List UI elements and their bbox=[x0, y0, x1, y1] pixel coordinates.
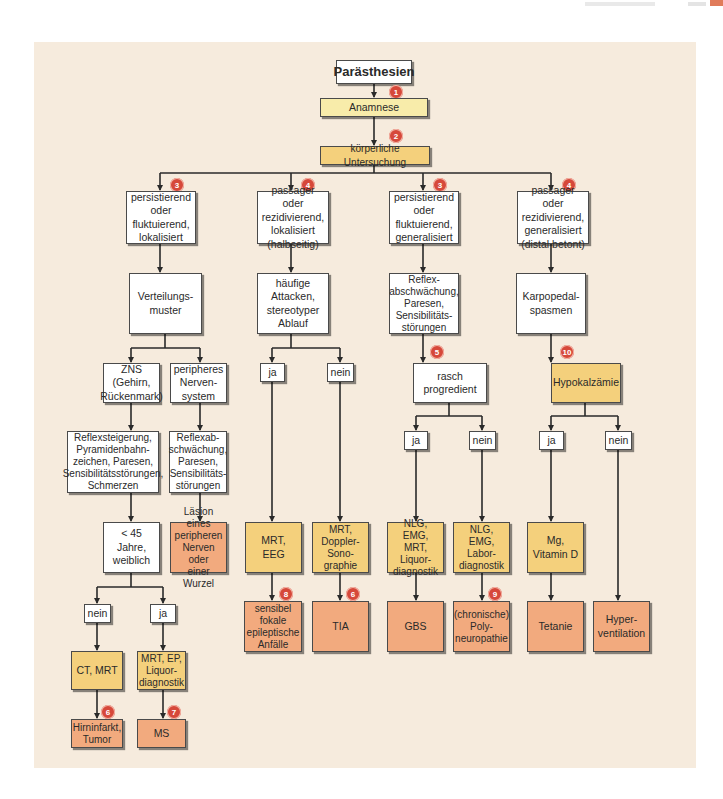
peripher-symptome-box: Reflexab- schwächung, Paresen, Sensibili… bbox=[169, 431, 227, 493]
karpopedalspasmen-box: Karpopedal- spasmen bbox=[516, 273, 586, 334]
mrt-ep-liquor-box: MRT, EP, Liquor- diagnostik bbox=[137, 651, 186, 690]
ms-box: MS bbox=[137, 719, 186, 748]
attacken-box: häufige Attacken, stereotyper Ablauf bbox=[257, 273, 329, 334]
mrt-eeg-box: MRT, EEG bbox=[245, 522, 302, 573]
mg-vitamin-d-box: Mg, Vitamin D bbox=[527, 522, 584, 573]
step-badge-9: 9 bbox=[488, 587, 502, 601]
untersuchung-box: körperliche Untersuchung bbox=[320, 146, 430, 165]
answer-ja-alter: ja bbox=[150, 604, 176, 623]
zns-box: ZNS (Gehirn, Rückenmark) bbox=[103, 363, 160, 403]
answer-nein-alter: nein bbox=[84, 604, 111, 623]
rasch-progredient-box: rasch progredient bbox=[413, 363, 487, 403]
step-badge-8: 8 bbox=[279, 587, 293, 601]
step-badge-2: 2 bbox=[389, 129, 403, 143]
polyneuropathie-box: (chronische) Poly- neuropathie bbox=[453, 601, 510, 652]
tetanie-box: Tetanie bbox=[527, 601, 584, 652]
step-badge-5: 5 bbox=[430, 345, 444, 359]
branch-persistierend-generalisiert: persistierend oder fluktuierend, general… bbox=[389, 191, 459, 244]
ct-mrt-box: CT, MRT bbox=[71, 651, 123, 690]
gbs-box: GBS bbox=[387, 601, 444, 652]
step-badge-10: 10 bbox=[560, 345, 574, 359]
hypokalzaemie-box: Hypokalzämie bbox=[551, 363, 621, 403]
alter-box: < 45 Jahre, weiblich bbox=[103, 522, 160, 573]
title-parasthesien: Parästhesien bbox=[336, 60, 412, 84]
answer-nein-hypo: nein bbox=[605, 431, 632, 450]
answer-nein-rasch: nein bbox=[469, 431, 496, 450]
branch-passager-generalisiert: passager oder rezidivierend, generalisie… bbox=[517, 191, 589, 244]
answer-ja-attacken: ja bbox=[260, 363, 285, 382]
answer-ja-rasch: ja bbox=[404, 431, 428, 450]
answer-nein-attacken: nein bbox=[327, 363, 354, 382]
laesion-box: Läsion eines peripheren Nerven oder eine… bbox=[170, 522, 227, 573]
mrt-doppler-box: MRT, Doppler- Sono- graphie bbox=[312, 522, 369, 573]
step-badge-7: 7 bbox=[167, 705, 181, 719]
nlg-emg-labor-box: NLG, EMG, Labor- diagnostik bbox=[453, 522, 510, 573]
nlg-emg-mrt-box: NLG, EMG, MRT, Liquor- diagnostik bbox=[387, 522, 444, 573]
zns-symptome-box: Reflexsteigerung, Pyramidenbahn- zeichen… bbox=[67, 431, 159, 493]
epileptische-anfaelle-box: sensibel fokale epileptische Anfälle bbox=[244, 601, 302, 652]
anamnese-box: Anamnese bbox=[320, 98, 428, 117]
hirninfarkt-tumor-box: Hirninfarkt, Tumor bbox=[71, 719, 123, 748]
peripheres-nervensystem-box: peripheres Nerven- system bbox=[170, 363, 227, 403]
hyperventilation-box: Hyper- ventilation bbox=[593, 601, 650, 652]
branch-passager-lokalisiert: passager oder rezidivierend, lokalisiert… bbox=[257, 191, 329, 244]
tia-box: TIA bbox=[312, 601, 369, 652]
answer-ja-hypo: ja bbox=[539, 431, 564, 450]
verteilungsmuster-box: Verteilungs- muster bbox=[129, 273, 202, 334]
step-badge-6a: 6 bbox=[101, 705, 115, 719]
step-badge-1: 1 bbox=[389, 85, 403, 99]
step-badge-6b: 6 bbox=[346, 587, 360, 601]
reflexabschwaechung-box: Reflex- abschwächung, Paresen, Sensibili… bbox=[389, 273, 459, 334]
branch-persistierend-lokalisiert: persistierend oder fluktuierend, lokalis… bbox=[126, 191, 196, 244]
